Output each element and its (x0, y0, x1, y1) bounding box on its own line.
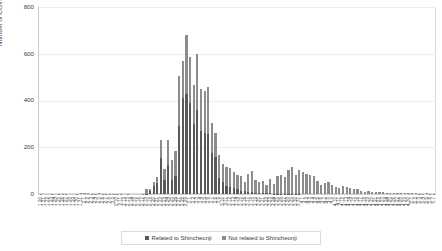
bar-segment-not-related (382, 192, 384, 194)
bar-segment-not-related (305, 174, 307, 194)
bar-segment-related (251, 192, 253, 194)
bar-segment-not-related (295, 175, 297, 194)
bar-segment-not-related (80, 193, 82, 194)
bar-segment-not-related (386, 193, 388, 194)
bar-stack (222, 164, 224, 194)
bar-stack (404, 193, 406, 194)
bar-segment-not-related (225, 167, 227, 186)
x-tick-label-group: 1.201.211.221.231.241.251.261.271.281.29… (39, 196, 435, 224)
bar-segment-related (233, 188, 235, 194)
bar-segment-not-related (426, 193, 428, 194)
bar-segment-not-related (396, 193, 398, 194)
bar-segment-related (174, 176, 176, 194)
bar-segment-not-related (83, 193, 85, 194)
bar-segment-related (204, 133, 206, 194)
bar-segment-not-related (411, 193, 413, 194)
bar-stack (251, 171, 253, 194)
bar-stack (160, 140, 162, 194)
bar-segment-not-related (254, 180, 256, 193)
bar-stack (346, 187, 348, 194)
bar-stack (83, 193, 85, 194)
bar-segment-not-related (367, 191, 369, 194)
bar-segment-not-related (407, 193, 409, 194)
bar-segment-not-related (371, 192, 373, 194)
bar-segment-not-related (273, 184, 275, 193)
bar-segment-related (167, 165, 169, 194)
bar-segment-related (218, 178, 220, 194)
bar-stack (364, 192, 366, 194)
bar-stack (320, 185, 322, 194)
bar-segment-not-related (302, 172, 304, 194)
bar-segment-not-related (356, 189, 358, 194)
bar-segment-related (262, 193, 264, 194)
bar-stack (200, 89, 202, 194)
x-tick-slot: 5.7 (432, 196, 436, 224)
bar-stack (153, 182, 155, 194)
bar-stack (149, 189, 151, 194)
bar-segment-not-related (262, 181, 264, 193)
bar-stack (396, 193, 398, 194)
bar-stack (145, 189, 147, 194)
bar-stack (382, 192, 384, 194)
bar-segment-not-related (87, 193, 89, 194)
bar-segment-not-related (400, 193, 402, 194)
bar-stack (335, 187, 337, 194)
bar-segment-related (171, 180, 173, 194)
bar-stack (327, 182, 329, 194)
bar-segment-related (200, 131, 202, 194)
bar-stack (211, 123, 213, 194)
bar-stack (389, 193, 391, 194)
bar-segment-not-related (284, 177, 286, 193)
bar-stack (415, 193, 417, 194)
x-tick-label: 5.7 (432, 197, 437, 203)
bar-segment-related (211, 153, 213, 194)
bar-segment-not-related (182, 61, 184, 98)
bar-segment-not-related (415, 193, 417, 194)
bar-stack (87, 193, 89, 194)
bar-stack (378, 192, 380, 194)
bar-segment-not-related (171, 160, 173, 180)
bar-segment-not-related (211, 123, 213, 153)
bar-stack (313, 176, 315, 194)
bar-stack (316, 181, 318, 194)
bar-segment-not-related (240, 176, 242, 190)
bar-segment-not-related (218, 155, 220, 177)
bar-segment-not-related (338, 188, 340, 194)
bar-stack (229, 168, 231, 194)
bar-segment-not-related (309, 175, 311, 194)
bar-stack (167, 140, 169, 194)
bar-segment-not-related (327, 182, 329, 194)
chart-legend: Related to Shincheonji Not related to Sh… (121, 231, 321, 245)
bar-stack (189, 57, 191, 194)
bar-segment-not-related (316, 181, 318, 194)
bar-stack (178, 76, 180, 194)
bar-segment-not-related (214, 133, 216, 156)
bar-segment-not-related (280, 175, 282, 194)
bar-segment-related (254, 193, 256, 194)
bar-segment-related (207, 134, 209, 194)
bar-segment-not-related (349, 188, 351, 194)
x-axis-baseline (38, 194, 436, 195)
bar-stack (254, 180, 256, 194)
covid-epidemic-curve-chart: Number of COVID-19 cases 0200400600800 1… (0, 0, 442, 251)
bar-stack (353, 189, 355, 194)
bar-stack (247, 174, 249, 194)
bar-segment-not-related (335, 187, 337, 194)
bar-segment-not-related (276, 176, 278, 194)
bar-stack (156, 177, 158, 194)
bar-stack (295, 175, 297, 194)
bar-stack (331, 185, 333, 194)
bar-stack (309, 175, 311, 194)
bar-segment-not-related (375, 192, 377, 194)
bar-segment-not-related (287, 170, 289, 193)
bar-segment-related (160, 158, 162, 194)
bar-segment-related (153, 186, 155, 194)
bar-stack (407, 193, 409, 194)
bar-stack (371, 192, 373, 194)
y-tick-label-400: 400 (0, 97, 34, 103)
bar-segment-not-related (269, 179, 271, 193)
bar-stack (280, 175, 282, 194)
bar-stack (204, 91, 206, 194)
bar-segment-not-related (324, 183, 326, 194)
bar-stack (236, 175, 238, 194)
